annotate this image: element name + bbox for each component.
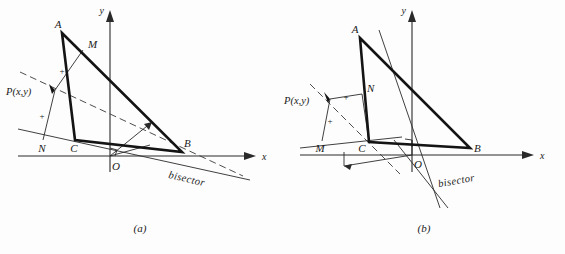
label-foot-n-a: N [37, 142, 46, 154]
label-foot-m-b: M [314, 142, 325, 154]
caption-panel-b: (b) [418, 222, 431, 235]
tick-mark-upper-b: + [343, 92, 348, 102]
x-axis-arrow-icon [244, 152, 256, 160]
caption-panel-a: (a) [134, 222, 147, 235]
y-axis-arrow-icon [408, 10, 416, 22]
x-axis-arrow-icon [522, 151, 534, 159]
label-vertex-b-b: B [474, 142, 481, 154]
label-point-p-a: P(x,y) [5, 86, 32, 98]
triangle-abc-b [360, 38, 470, 148]
label-point-p-b: P(x,y) [283, 95, 310, 107]
diagram-a-canvas: + + A B C M N P(x,y) O x y bisector (a) [0, 0, 283, 254]
label-origin-b: O [414, 158, 422, 170]
diagram-b-canvas: + + A B C N M P(x,y) O x y bisector (b) [282, 0, 565, 254]
label-x-axis-a: x [261, 151, 267, 162]
x-axis-a [18, 152, 256, 160]
triangle-abc-a [62, 33, 182, 152]
y-axis-a [106, 10, 114, 172]
label-y-axis-b: y [401, 5, 407, 16]
bisector-solid-line-b [379, 30, 440, 208]
tick-mark-lower-b: + [327, 116, 332, 126]
bisector-solid-line-b2 [394, 140, 448, 208]
label-foot-m-a: M [87, 38, 98, 50]
y-axis-arrow-icon [106, 10, 114, 22]
label-origin-a: O [112, 160, 120, 172]
segment-pn-a [43, 90, 55, 140]
label-vertex-a-a: A [54, 18, 62, 30]
label-bisector-a: bisector [168, 169, 207, 188]
panel-b: + + A B C N M P(x,y) O x y bisector (b) [282, 0, 565, 254]
label-vertex-c-b: C [358, 142, 366, 154]
label-foot-n-b: N [366, 82, 375, 94]
panel-a: + + A B C M N P(x,y) O x y bisector (a) [0, 0, 283, 254]
label-y-axis-a: y [99, 5, 105, 16]
label-vertex-a-b: A [351, 23, 359, 35]
label-vertex-c-a: C [70, 142, 78, 154]
label-x-axis-b: x [539, 150, 545, 161]
tick-mark-lower-a: + [39, 111, 44, 121]
bisector-dashed-line-b [310, 84, 400, 174]
label-bisector-b: bisector [437, 172, 476, 189]
arrow-c-marker-b [344, 155, 412, 170]
figure-root: + + A B C M N P(x,y) O x y bisector (a) [0, 0, 565, 254]
tick-mark-upper-a: + [59, 66, 64, 76]
bisector-dashed-line-a [20, 72, 243, 176]
label-vertex-b-a: B [184, 137, 191, 149]
